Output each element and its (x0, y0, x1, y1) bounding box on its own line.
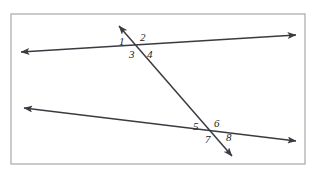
lower-parallel-line (24, 108, 296, 141)
transversal-line (119, 26, 232, 156)
angle-label-3: 3 (129, 49, 135, 60)
angle-label-2: 2 (140, 32, 146, 43)
angle-label-1: 1 (119, 36, 125, 47)
upper-parallel-line (21, 35, 296, 52)
angle-label-8: 8 (226, 132, 232, 143)
angle-label-5: 5 (193, 121, 199, 132)
angle-label-7: 7 (205, 134, 211, 145)
geometry-figure: 1 2 3 4 5 6 7 8 (0, 0, 319, 178)
angle-label-4: 4 (147, 49, 153, 60)
angle-label-6: 6 (214, 118, 220, 129)
figure-canvas (0, 0, 319, 178)
